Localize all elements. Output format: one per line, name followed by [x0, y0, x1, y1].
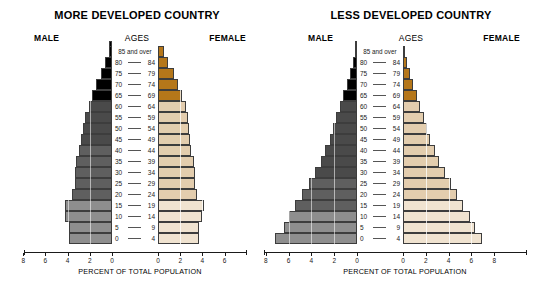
x-axis-label-female-2: 2 — [419, 257, 433, 264]
age-group-upper: 44 — [393, 145, 400, 156]
age-group-upper: 4 — [151, 233, 155, 244]
age-group-row: 59 — [357, 222, 403, 233]
x-axis-endcap — [526, 250, 527, 255]
x-axis-label-male-0: 0 — [105, 257, 119, 264]
age-range-dash — [128, 117, 141, 118]
bar-male-6064 — [89, 101, 112, 112]
age-group-lower: 65 — [115, 90, 122, 101]
bar-male-7074 — [347, 79, 357, 90]
bar-male-5054 — [333, 123, 357, 134]
age-range-dash — [373, 139, 386, 140]
age-group-upper: 69 — [148, 90, 155, 101]
age-group-upper: 74 — [393, 79, 400, 90]
age-group-lower: 5 — [115, 222, 119, 233]
age-group-upper: 34 — [148, 167, 155, 178]
bar-female-3034 — [158, 167, 195, 178]
x-axis-tick — [180, 253, 181, 256]
bar-male-5559 — [336, 112, 357, 123]
age-range-dash — [128, 128, 141, 129]
age-group-upper: 59 — [148, 112, 155, 123]
age-group-lower: 80 — [115, 57, 122, 68]
age-range-dash — [373, 95, 386, 96]
bar-male-3539 — [321, 156, 357, 167]
x-axis-tick — [449, 253, 450, 256]
age-group-lower: 60 — [360, 101, 367, 112]
age-range-dash — [128, 227, 141, 228]
bar-female-85andover — [403, 46, 405, 57]
age-group-row: 1014 — [357, 211, 403, 222]
bar-female-3539 — [403, 156, 439, 167]
bar-male-2529 — [75, 178, 112, 189]
gridline-male — [45, 46, 46, 244]
age-group-row: 5559 — [357, 112, 403, 123]
age-range-dash — [373, 238, 386, 239]
bar-male-7579 — [350, 68, 357, 79]
age-range-dash — [373, 84, 386, 85]
bar-male-3034 — [315, 167, 357, 178]
age-group-lower: 35 — [360, 156, 367, 167]
age-group-row: 3539 — [112, 156, 158, 167]
bar-female-4044 — [403, 145, 435, 156]
bar-male-1519 — [65, 200, 112, 211]
bar-female-3539 — [158, 156, 194, 167]
gridline-female — [180, 46, 181, 244]
age-group-lower: 50 — [115, 123, 122, 134]
age-range-dash — [373, 73, 386, 74]
gridline-male — [334, 46, 335, 244]
age-range-dash — [128, 95, 141, 96]
age-group-upper: 79 — [393, 68, 400, 79]
age-group-upper: 54 — [148, 123, 155, 134]
gridline-female — [494, 46, 495, 244]
axis-caption-left: PERCENT OF TOTAL POPULATION — [60, 267, 220, 276]
age-group-lower: 0 — [115, 233, 119, 244]
age-range-dash — [373, 117, 386, 118]
age-group-lower: 25 — [115, 178, 122, 189]
age-group-upper: 4 — [396, 233, 400, 244]
x-axis-tick — [202, 253, 203, 256]
age-group-row: 59 — [112, 222, 158, 233]
x-axis-tick — [334, 253, 335, 256]
age-group-lower: 75 — [115, 68, 122, 79]
age-group-row: 8084 — [112, 57, 158, 68]
age-group-upper: 59 — [393, 112, 400, 123]
gridline-male — [68, 46, 69, 244]
age-group-upper: 49 — [393, 134, 400, 145]
age-group-lower: 10 — [115, 211, 122, 222]
age-group-lower: 45 — [115, 134, 122, 145]
bar-male-6569 — [343, 90, 357, 101]
bar-female-5559 — [403, 112, 424, 123]
age-group-upper: 84 — [148, 57, 155, 68]
x-axis-endcap — [24, 250, 25, 255]
age-group-row: 3034 — [112, 167, 158, 178]
age-range-dash — [128, 194, 141, 195]
age-range-dash — [373, 172, 386, 173]
age-group-upper: 54 — [393, 123, 400, 134]
age-group-upper: 24 — [393, 189, 400, 200]
age-group-upper: 39 — [148, 156, 155, 167]
bar-male-1519 — [295, 200, 357, 211]
age-range-dash — [373, 161, 386, 162]
bar-female-2024 — [158, 189, 197, 200]
age-group-lower: 70 — [115, 79, 122, 90]
age-group-upper: 19 — [148, 200, 155, 211]
bar-female-59 — [403, 222, 475, 233]
age-range-dash — [373, 106, 386, 107]
age-group-row: 7074 — [357, 79, 403, 90]
age-group-row: 2024 — [112, 189, 158, 200]
age-group-lower: 80 — [360, 57, 367, 68]
age-group-upper: 29 — [148, 178, 155, 189]
age-ladder-left: 85 and over80847579707465696064555950544… — [112, 46, 158, 244]
age-range-dash — [373, 216, 386, 217]
age-range-dash — [128, 205, 141, 206]
bar-male-4044 — [79, 145, 112, 156]
age-range-dash — [128, 183, 141, 184]
x-axis-label-female-2: 2 — [173, 257, 187, 264]
age-range-dash — [373, 205, 386, 206]
age-group-row: 7579 — [112, 68, 158, 79]
age-group-lower: 55 — [115, 112, 122, 123]
bar-female-6569 — [403, 90, 417, 101]
age-group-lower: 45 — [360, 134, 367, 145]
age-range-dash — [128, 106, 141, 107]
age-group-lower: 50 — [360, 123, 367, 134]
x-axis-label-female-6: 6 — [218, 257, 232, 264]
